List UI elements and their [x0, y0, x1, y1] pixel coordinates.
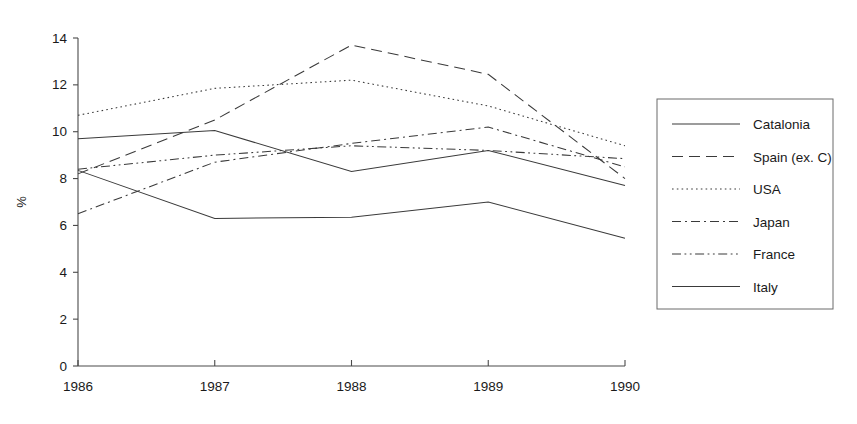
y-tick-label: 4 — [59, 265, 67, 280]
y-axis: 02468101214 — [52, 31, 78, 374]
series-line-catalonia — [78, 131, 625, 186]
x-tick-label: 1986 — [63, 379, 93, 394]
legend-label-spain-ex-c: Spain (ex. C) — [753, 150, 832, 165]
x-tick-label: 1989 — [473, 379, 503, 394]
chart-title-fragment — [520, 0, 610, 4]
legend-label-france: France — [753, 247, 795, 262]
legend-label-catalonia: Catalonia — [753, 117, 811, 132]
legend-item-japan[interactable]: Japan — [672, 215, 790, 230]
series-line-italy — [78, 170, 625, 238]
legend-item-france[interactable]: France — [672, 247, 795, 262]
y-tick-label: 10 — [52, 124, 67, 139]
legend-label-italy: Italy — [753, 280, 778, 295]
legend-item-catalonia[interactable]: Catalonia — [672, 117, 811, 132]
legend-items: CataloniaSpain (ex. C)USAJapanFranceItal… — [672, 117, 832, 295]
x-tick-label: 1987 — [200, 379, 230, 394]
x-axis-ticks: 19861987198819891990 — [63, 360, 640, 394]
x-axis: 19861987198819891990 — [63, 360, 640, 394]
y-tick-label: 6 — [59, 218, 67, 233]
y-axis-title-group: % — [14, 196, 29, 208]
x-tick-label: 1988 — [336, 379, 366, 394]
x-tick-label: 1990 — [610, 379, 640, 394]
chart-canvas: % 02468101214 19861987198819891990 Catal… — [0, 0, 857, 424]
legend-item-italy[interactable]: Italy — [672, 280, 778, 295]
legend-item-usa[interactable]: USA — [672, 182, 781, 197]
series-line-spain-ex-c — [78, 45, 625, 179]
y-axis-title: % — [14, 196, 29, 208]
y-tick-label: 0 — [59, 359, 67, 374]
y-axis-ticks: 02468101214 — [52, 31, 78, 374]
y-tick-label: 12 — [52, 77, 67, 92]
legend-label-usa: USA — [753, 182, 781, 197]
line-chart-figure: % 02468101214 19861987198819891990 Catal… — [0, 0, 857, 424]
series-line-france — [78, 146, 625, 169]
series-line-usa — [78, 80, 625, 146]
legend: CataloniaSpain (ex. C)USAJapanFranceItal… — [657, 99, 833, 309]
y-tick-label: 14 — [52, 31, 68, 46]
legend-item-spain-ex-c[interactable]: Spain (ex. C) — [672, 150, 832, 165]
legend-label-japan: Japan — [753, 215, 790, 230]
series-line-japan — [78, 127, 625, 214]
y-tick-label: 2 — [59, 312, 67, 327]
y-tick-label: 8 — [59, 171, 67, 186]
series-layer — [78, 45, 625, 238]
